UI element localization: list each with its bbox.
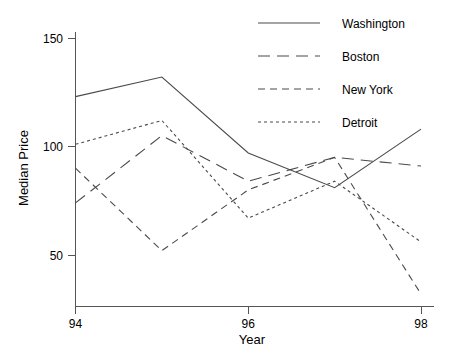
x-axis-ticks: 949698 [69,307,428,332]
series-lines [76,77,422,294]
legend-label-new-york: New York [342,83,394,97]
y-axis-title: Median Price [16,130,31,206]
y-axis-ticks: 50100150 [43,32,76,263]
chart-canvas: 50100150 949698 Median Price Year Washin… [0,0,449,356]
y-tick-label: 50 [50,249,64,263]
chart-legend: WashingtonBostonNew YorkDetroit [258,17,405,130]
y-tick-label: 150 [43,32,63,46]
legend-label-boston: Boston [342,50,379,64]
series-line-boston [76,136,422,203]
legend-label-detroit: Detroit [342,116,378,130]
series-line-detroit [76,120,422,242]
line-chart: 50100150 949698 Median Price Year Washin… [0,0,449,356]
legend-label-washington: Washington [342,17,405,31]
x-tick-label: 94 [69,317,83,331]
x-axis-title: Year [239,332,266,347]
x-tick-label: 96 [242,317,256,331]
x-tick-label: 98 [414,317,428,331]
y-tick-label: 100 [43,140,63,154]
series-line-new-york [76,157,422,294]
